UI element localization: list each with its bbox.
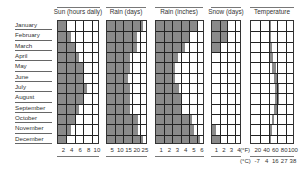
bar: [156, 93, 181, 104]
rain-inches-title: Rain (inches): [153, 8, 205, 15]
tick-label: 10: [117, 147, 124, 153]
tick-label: 60: [272, 147, 279, 153]
grid-line: [156, 73, 203, 74]
snow-bottom-rule: [211, 156, 241, 157]
bar: [58, 62, 83, 73]
bar: [156, 83, 179, 94]
tick-label: 6: [79, 147, 82, 153]
bar: [212, 42, 220, 53]
grid-line: [107, 52, 146, 53]
bar: [58, 21, 66, 32]
tick-label: 1: [215, 147, 218, 153]
temperature-band: [270, 124, 272, 135]
grid-line: [58, 31, 98, 32]
grid-line: [212, 114, 240, 115]
grid-line: [58, 135, 98, 136]
bar: [156, 104, 182, 115]
grid-line: [251, 93, 293, 94]
bar: [58, 31, 71, 42]
rain-days-bottom-rule: [106, 156, 147, 157]
month-label: April: [15, 51, 52, 61]
bar: [58, 124, 71, 135]
month-label: September: [15, 103, 52, 113]
temp-title: Temperature: [248, 8, 296, 15]
bar: [58, 93, 83, 104]
tick-label: 3: [176, 147, 179, 153]
bar: [156, 21, 197, 32]
tick-label: 25: [142, 147, 149, 153]
grid-line: [212, 73, 240, 74]
grid-line: [251, 52, 293, 53]
grid-line: [107, 83, 146, 84]
tick-label: 2: [168, 147, 171, 153]
grid-line: [58, 42, 98, 43]
tick-label: 2: [222, 147, 225, 153]
snow-title: Snow (days): [206, 8, 246, 15]
grid-line: [251, 114, 293, 115]
grid-line: [107, 93, 146, 94]
grid-line: [251, 124, 293, 125]
tick-label: (°F): [240, 147, 250, 153]
tick-label: 27: [281, 158, 288, 164]
tick-label: 100: [288, 147, 298, 153]
grid-line: [107, 62, 146, 63]
month-label: January: [15, 20, 52, 30]
tick-label: 10: [94, 147, 101, 153]
grid-line: [107, 114, 146, 115]
bar: [107, 21, 143, 32]
temperature-band: [270, 52, 273, 63]
grid-line: [251, 62, 293, 63]
tick-label: 2: [62, 147, 65, 153]
grid-line: [212, 62, 240, 63]
grid-line: [107, 124, 146, 125]
temperature-band: [272, 114, 274, 125]
tick-label: 3: [230, 147, 233, 153]
month-label: December: [15, 134, 52, 144]
temperature-panel: [250, 20, 294, 144]
rain-inches-panel: [155, 20, 204, 144]
tick-label: 20: [254, 147, 261, 153]
rain-days-panel: [106, 20, 147, 144]
tick-label: 4: [70, 147, 73, 153]
month-label: May: [15, 61, 52, 71]
grid-line: [156, 114, 203, 115]
tick-label: 6: [200, 147, 203, 153]
bar: [58, 104, 79, 115]
grid-line: [212, 42, 240, 43]
month-label: October: [15, 113, 52, 123]
bar: [156, 135, 200, 144]
tick-label: 4: [265, 158, 268, 164]
tick-label: 38: [290, 158, 297, 164]
grid-line: [107, 135, 146, 136]
grid-line: [251, 73, 293, 74]
tick-label: (°C): [240, 158, 251, 164]
grid-line: [212, 52, 240, 53]
bar: [107, 135, 143, 144]
grid-line: [212, 31, 240, 32]
month-label: March: [15, 41, 52, 51]
month-label: July: [15, 82, 52, 92]
tick-label: 4: [184, 147, 187, 153]
grid-line: [156, 104, 203, 105]
tick-label: -7: [254, 158, 259, 164]
grid-line: [58, 73, 98, 74]
bar: [156, 52, 178, 63]
bar: [107, 83, 130, 94]
bar: [58, 52, 79, 63]
grid-line: [107, 42, 146, 43]
grid-line: [251, 31, 293, 32]
grid-line: [107, 104, 146, 105]
bar: [156, 114, 192, 125]
grid-line: [251, 83, 293, 84]
grid-line: [212, 93, 240, 94]
grid-line: [107, 31, 146, 32]
temp-bottom-rule: [250, 156, 294, 157]
grid-line: [156, 93, 203, 94]
tick-label: 5: [111, 147, 114, 153]
grid-line: [212, 83, 240, 84]
grid-line: [212, 135, 240, 136]
bar: [107, 73, 128, 84]
sun-bottom-rule: [57, 156, 99, 157]
grid-line: [156, 135, 203, 136]
grid-line: [58, 124, 98, 125]
